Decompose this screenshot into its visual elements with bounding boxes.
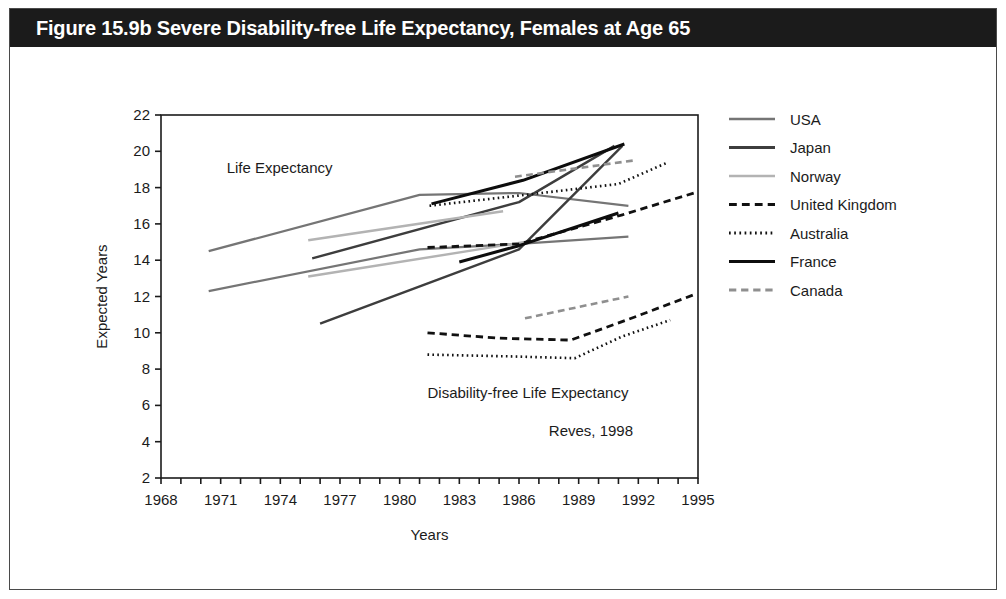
x-axis-title: Years [411,526,449,543]
y-tick-label: 20 [133,142,150,159]
y-tick-label: 8 [142,360,150,377]
legend-label-usa: USA [790,111,821,128]
legend-label-france: France [790,253,837,270]
x-tick-label: 1980 [383,491,416,508]
line-chart: 2468101214161820221968197119741977198019… [0,47,1006,599]
page-title: Figure 15.9b Severe Disability-free Life… [10,17,690,40]
y-axis-title: Expected Years [93,244,110,348]
legend-label-united-kingdom: United Kingdom [790,196,897,213]
x-tick-label: 1983 [443,491,476,508]
y-tick-label: 14 [133,251,150,268]
y-tick-label: 16 [133,215,150,232]
y-tick-label: 6 [142,396,150,413]
x-tick-label: 1974 [264,491,297,508]
figure-title-banner: Figure 15.9b Severe Disability-free Life… [10,9,996,47]
legend-label-japan: Japan [790,139,831,156]
y-tick-label: 10 [133,324,150,341]
figure-page: Figure 15.9b Severe Disability-free Life… [0,0,1006,599]
y-tick-label: 18 [133,179,150,196]
y-tick-label: 4 [142,433,150,450]
x-tick-label: 1977 [323,491,356,508]
x-tick-label: 1992 [622,491,655,508]
chart-area: 2468101214161820221968197119741977198019… [0,47,1006,599]
x-tick-label: 1971 [204,491,237,508]
y-tick-label: 22 [133,106,150,123]
x-tick-label: 1986 [502,491,535,508]
legend-label-australia: Australia [790,225,849,242]
legend-label-norway: Norway [790,168,841,185]
chart-annotation-3: Reves, 1998 [549,422,633,439]
chart-annotation-2: Disability-free Life Expectancy [428,384,629,401]
x-axis: 1968197119741977198019831986198919921995 [144,478,714,508]
y-axis: 246810121416182022 [133,106,161,486]
y-tick-label: 2 [142,469,150,486]
y-tick-label: 12 [133,288,150,305]
x-tick-label: 1968 [144,491,177,508]
legend-label-canada: Canada [790,282,843,299]
x-tick-label: 1989 [562,491,595,508]
chart-legend: USAJapanNorwayUnited KingdomAustraliaFra… [729,111,897,299]
chart-annotation-1: Life Expectancy [227,159,333,176]
x-tick-label: 1995 [681,491,714,508]
